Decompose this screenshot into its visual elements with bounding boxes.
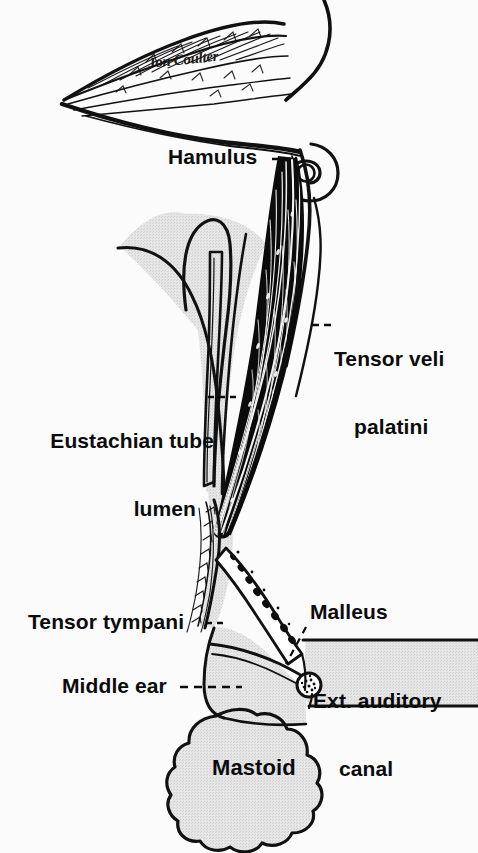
label-ext-auditory-line1: Ext. auditory	[313, 690, 442, 713]
palate-shading-left	[120, 212, 198, 330]
label-middle-ear: Middle ear	[62, 675, 167, 698]
label-eustachian-line1: Eustachian tube	[14, 430, 214, 453]
label-ext-auditory-line2: canal	[313, 758, 442, 781]
label-ext-auditory-canal: Ext. auditory canal	[313, 645, 442, 826]
label-tensor-veli-line2: palatini	[334, 416, 444, 439]
label-tensor-veli-palatini: Tensor veli palatini	[334, 303, 444, 484]
label-tensor-veli-line1: Tensor veli	[334, 348, 444, 371]
anatomical-diagram: Hamulus Tensor veli palatini Eustachian …	[0, 0, 478, 853]
label-malleus: Malleus	[310, 601, 388, 624]
label-eustachian-tube-lumen: Eustachian tube lumen	[14, 385, 214, 566]
label-mastoid: Mastoid	[212, 756, 296, 780]
label-tensor-tympani: Tensor tympani	[28, 611, 184, 634]
label-hamulus: Hamulus	[168, 146, 257, 169]
palatal-aponeurosis-fan	[64, 22, 292, 116]
pterygoid-plate-arc	[286, 0, 330, 100]
label-eustachian-line2: lumen	[14, 498, 214, 521]
